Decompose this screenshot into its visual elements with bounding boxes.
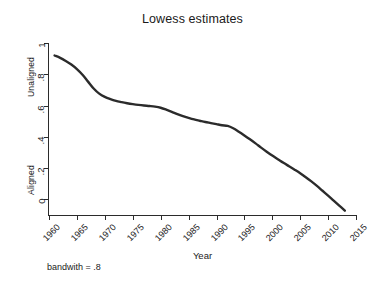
x-tick-mark: [105, 216, 106, 220]
y-tick-label: .4: [36, 136, 47, 144]
x-tick-mark: [244, 216, 245, 220]
x-axis-line: [48, 215, 357, 216]
x-tick-mark: [77, 216, 78, 220]
lowess-estimates-figure: Lowess estimates 1.8.6.4.20 196019651970…: [0, 0, 385, 295]
y-tick-label: 1: [36, 43, 47, 48]
x-tick-mark: [272, 216, 273, 220]
x-axis-title: Year: [49, 250, 356, 261]
bandwidth-note: bandwith = .8: [47, 262, 101, 272]
lowess-curve: [55, 56, 345, 211]
x-tick-mark: [356, 216, 357, 220]
chart-title: Lowess estimates: [0, 12, 385, 26]
x-tick-mark: [133, 216, 134, 220]
y-tick-label: .6: [36, 105, 47, 113]
x-tick-mark: [217, 216, 218, 220]
y-tick-label: .2: [36, 168, 47, 176]
x-tick-mark: [49, 216, 50, 220]
plot-region: [49, 43, 356, 215]
x-tick-mark: [300, 216, 301, 220]
x-tick-mark: [328, 216, 329, 220]
y-axis-line: [48, 43, 49, 216]
y-axis-group-label-aligned: Aligned: [26, 150, 36, 210]
y-tick-label: .8: [36, 74, 47, 82]
lowess-line-plot: [49, 43, 356, 215]
x-tick-mark: [161, 216, 162, 220]
y-tick-label: 0: [36, 199, 47, 204]
y-axis-group-label-unaligned: Unaligned: [26, 42, 36, 112]
x-tick-mark: [189, 216, 190, 220]
